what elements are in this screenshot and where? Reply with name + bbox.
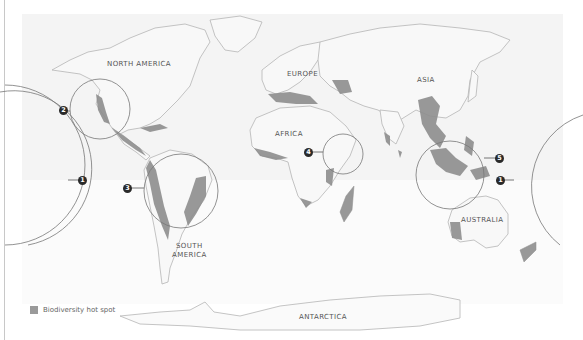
label-europe: EUROPE <box>287 70 318 78</box>
legend-label: Biodiversity hot spot <box>43 306 115 314</box>
label-north-america: NORTH AMERICA <box>107 60 171 68</box>
label-south-america-line1: SOUTH <box>176 242 203 250</box>
label-antarctica: ANTARCTICA <box>299 313 347 321</box>
label-asia: ASIA <box>417 76 435 84</box>
marker-hotspot-4[interactable]: 4 <box>304 148 313 157</box>
label-australia: AUSTRALIA <box>461 216 503 224</box>
label-south-america-line2: AMERICA <box>172 251 207 259</box>
marker-hotspot-1-left[interactable]: 1 <box>78 176 87 185</box>
hotspot-swatch-icon <box>30 306 38 314</box>
map-legend: Biodiversity hot spot <box>30 306 115 314</box>
marker-hotspot-2[interactable]: 2 <box>59 106 68 115</box>
label-africa: AFRICA <box>275 130 303 138</box>
marker-hotspot-1-right[interactable]: 1 <box>496 176 505 185</box>
marker-hotspot-5[interactable]: 5 <box>495 154 504 163</box>
world-map <box>0 0 583 340</box>
marker-hotspot-3[interactable]: 3 <box>123 184 132 193</box>
